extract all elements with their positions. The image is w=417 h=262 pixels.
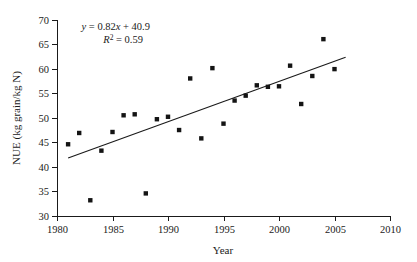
x-tick-label: 1995 [214, 224, 235, 235]
data-point [210, 66, 214, 70]
x-tick-label: 2010 [380, 224, 401, 235]
data-point [299, 102, 303, 106]
data-point [288, 63, 292, 67]
y-tick-label: 35 [39, 186, 50, 197]
x-tick-label: 2000 [269, 224, 290, 235]
data-point [332, 67, 336, 71]
y-axis-tick-group [52, 21, 57, 217]
data-point [155, 117, 159, 121]
data-point [110, 130, 114, 134]
y-axis-title: NUE (kg grain/kg N) [10, 71, 23, 165]
x-tick-label: 1985 [103, 224, 124, 235]
data-point [177, 128, 181, 132]
x-axis-title: Year [213, 244, 234, 256]
x-tick-label: 1990 [158, 224, 179, 235]
y-tick-label: 40 [39, 162, 50, 173]
y-tick-label: 50 [39, 113, 50, 124]
data-point [232, 98, 236, 102]
data-point [77, 131, 81, 135]
data-point [255, 83, 259, 87]
data-point [66, 142, 70, 146]
data-point [266, 85, 270, 89]
data-point [121, 113, 125, 117]
data-point [166, 115, 170, 119]
data-point [144, 191, 148, 195]
y-tick-label: 45 [39, 137, 50, 148]
r-squared-value: = 0.59 [113, 34, 143, 45]
y-tick-label: 65 [39, 39, 50, 50]
data-point [310, 74, 314, 78]
data-point [199, 136, 203, 140]
data-point [277, 84, 281, 88]
chart-canvas: 303540455055606570 198019851990199520002… [0, 0, 417, 262]
equation-intercept: + 40.9 [120, 21, 150, 32]
y-tick-label: 70 [39, 15, 50, 26]
x-tick-label: 1980 [47, 224, 68, 235]
regression-trendline [68, 57, 346, 158]
y-axis-tick-labels: 303540455055606570 [39, 15, 50, 222]
data-point [221, 121, 225, 125]
equation-coefficient: = 0.82 [86, 21, 116, 32]
data-point [188, 76, 192, 80]
x-tick-label: 2005 [325, 224, 346, 235]
scatter-plot-figure: 303540455055606570 198019851990199520002… [0, 0, 417, 262]
data-point-group [66, 37, 337, 203]
x-axis-tick-labels: 1980198519901995200020052010 [47, 224, 401, 235]
data-point [321, 37, 325, 41]
data-point [99, 148, 103, 152]
r-squared-annotation: R2 = 0.59 [102, 33, 143, 46]
x-axis-tick-group [58, 216, 391, 221]
y-tick-label: 55 [39, 88, 50, 99]
data-point [133, 112, 137, 116]
data-point [88, 198, 92, 202]
y-tick-label: 30 [39, 211, 50, 222]
trendline-equation-annotation: y = 0.82x + 40.9 [81, 21, 150, 32]
data-point [244, 93, 248, 97]
y-tick-label: 60 [39, 64, 50, 75]
